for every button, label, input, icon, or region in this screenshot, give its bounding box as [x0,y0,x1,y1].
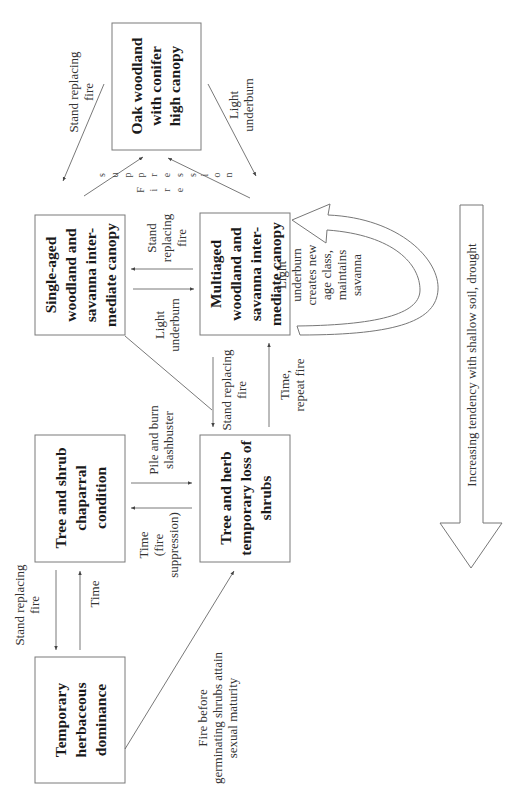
label-fire-suppression: s u p p r e s s i o n F i r e [96,172,234,193]
svg-text:s: s [174,173,185,177]
state-oak-line2: with conifer [147,46,164,126]
label-single-multi-stand-replacing: Stand replacing fire [144,213,189,262]
svg-text:n: n [223,173,234,178]
label-oak-light-underburn: Light underburn [226,78,256,132]
svg-text:slashbuster: slashbuster [161,410,176,468]
svg-text:Increasing tendency with shall: Increasing tendency with shallow soil, d… [464,243,479,487]
svg-text:Light: Light [226,91,241,120]
label-herb-multi-time: Time, repeat fire [277,358,307,411]
svg-text:s: s [96,173,107,177]
state-herb-line2: temporary loss of [237,439,254,555]
svg-text:u: u [109,173,120,178]
state-single-line4: mediate canopy [102,223,119,327]
svg-text:fire: fire [234,381,249,399]
svg-text:F: F [135,187,146,193]
state-herb-line3: shrubs [257,476,274,521]
svg-text:underburn: underburn [289,248,304,302]
state-oak-woodland: Oak woodland with conifer high canopy [112,23,201,150]
svg-text:Pile and burn: Pile and burn [146,405,161,475]
state-herbaceous-line3: dominance [92,684,109,756]
svg-text:Stand replacing: Stand replacing [219,349,234,431]
state-single-aged: Single-aged woodland and savanna inter- … [35,215,125,335]
label-shrub-herbaceous-stand-replacing: Stand replacing fire [12,564,42,646]
state-single-line2: woodland and [62,228,79,322]
state-herbaceous-line1: Temporary [52,683,69,758]
state-herbaceous-line2: herbaceous [72,683,89,758]
svg-text:Time: Time [87,580,102,607]
svg-text:r: r [148,173,159,177]
label-herbaceous-shrub-time: Time [87,580,102,607]
label-oak-stand-replacing: Stand replacing fire [66,51,96,133]
label-gradient: Increasing tendency with shallow soil, d… [464,243,479,487]
state-shrub-line2: chaparral [72,465,89,531]
svg-text:Stand replacing: Stand replacing [12,564,27,646]
svg-text:e: e [174,187,185,192]
svg-text:Stand: Stand [144,223,159,253]
svg-text:fire: fire [174,229,189,247]
svg-text:Light: Light [152,311,167,340]
svg-text:o: o [211,173,222,178]
label-pile-and-burn: Pile and burn slashbuster [146,405,176,475]
svg-text:Time: Time [136,531,151,558]
svg-text:sexual maturity: sexual maturity [225,677,240,758]
state-single-line3: savanna inter- [82,228,99,323]
state-tree-shrub-chaparral: Tree and shrub chaparral condition [35,435,125,562]
label-multi-herb-stand-replacing: Stand replacing fire [219,349,249,431]
svg-text:Fire before: Fire before [195,689,210,747]
state-temporary-herbaceous: Temporary herbaceous dominance [35,657,125,783]
svg-text:repeat fire: repeat fire [292,358,307,411]
svg-text:savanna: savanna [349,254,364,296]
state-herb-line1: Tree and herb [217,451,234,544]
svg-text:Light: Light [274,261,289,290]
svg-text:suppression): suppression) [166,512,181,578]
svg-text:maintains: maintains [334,250,349,301]
state-oak-line1: Oak woodland [128,37,145,134]
state-multi-line1: Multiaged [207,240,224,308]
svg-text:replacing: replacing [159,213,174,262]
svg-text:creates new: creates new [304,244,319,306]
state-shrub-line1: Tree and shrub [52,447,69,548]
svg-text:(fire: (fire [151,534,166,557]
state-oak-line3: high canopy [166,45,183,126]
svg-text:e: e [161,172,172,177]
svg-text:p: p [135,173,146,178]
state-multi-line3: savanna inter- [247,227,264,322]
svg-text:age class,: age class, [319,250,334,300]
svg-text:germinating shrubs attain: germinating shrubs attain [210,651,225,784]
svg-text:fire: fire [81,83,96,101]
label-fire-before-germinating: Fire before germinating shrubs attain se… [195,651,240,784]
svg-text:underburn: underburn [241,78,256,132]
svg-text:p: p [122,173,133,178]
svg-text:underburn: underburn [167,298,182,352]
state-shrub-line3: condition [92,467,109,529]
svg-text:i: i [148,188,159,191]
svg-text:r: r [161,188,172,192]
state-tree-herb: Tree and herb temporary loss of shrubs [200,435,290,562]
svg-text:Stand replacing: Stand replacing [66,51,81,133]
svg-text:fire: fire [27,596,42,614]
label-single-multi-light-underburn: Light underburn [152,298,182,352]
label-time-fire-suppression: Time (fire suppression) [136,512,181,578]
svg-text:s: s [187,173,198,177]
state-multi-line2: woodland and [227,227,244,321]
state-single-line1: Single-aged [42,236,59,313]
svg-text:Time,: Time, [277,370,292,400]
succession-diagram: Oak woodland with conifer high canopy Si… [0,0,518,797]
svg-text:i: i [199,173,210,176]
